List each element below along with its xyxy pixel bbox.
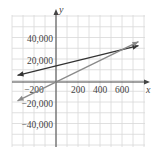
y-axis-label: y — [58, 4, 64, 15]
x-tick-label: 200 — [71, 85, 86, 95]
x-tick-label: 600 — [115, 85, 130, 95]
y-tick-label: 40,000 — [27, 34, 53, 44]
y-axis-arrow-icon — [54, 9, 59, 15]
line-chart: x y −20020040060040,00020,000−20,000−40,… — [0, 0, 158, 155]
y-tick-label: −20,000 — [22, 99, 54, 109]
y-tick-label: −40,000 — [22, 120, 54, 130]
y-tick-label: 20,000 — [27, 56, 53, 66]
x-axis-label: x — [145, 84, 151, 95]
x-tick-label: 400 — [93, 85, 108, 95]
